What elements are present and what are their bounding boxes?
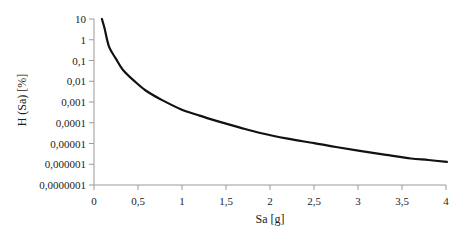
y-tick-label: 0,00001 [50, 138, 86, 150]
y-tick-label: 0,0000001 [39, 179, 86, 191]
x-axis-title: Sa [g] [256, 212, 285, 226]
y-tick-label: 0,01 [67, 75, 86, 87]
x-tick-label: 3,5 [395, 195, 409, 207]
y-tick-label: 0,001 [61, 96, 86, 108]
x-tick-label: 4 [443, 195, 449, 207]
y-tick-label: 0,1 [72, 55, 86, 67]
x-tick-label: 2 [267, 195, 273, 207]
hazard-curve-chart: 1010,10,010,0010,00010,000010,0000010,00… [0, 0, 466, 245]
y-tick-label: 1 [81, 34, 87, 46]
y-axis-title: H (Sa) [%] [15, 74, 29, 127]
y-axis: 1010,10,010,0010,00010,000010,0000010,00… [39, 13, 94, 191]
x-tick-label: 0,5 [131, 195, 145, 207]
hazard-curve-line [102, 19, 447, 162]
x-tick-label: 0 [91, 195, 97, 207]
x-tick-label: 2,5 [307, 195, 321, 207]
x-tick-label: 1,5 [219, 195, 233, 207]
x-axis: 00,511,522,533,54 [91, 185, 449, 207]
y-tick-label: 10 [75, 13, 87, 25]
y-tick-label: 0,0001 [56, 117, 86, 129]
y-tick-label: 0,000001 [45, 158, 86, 170]
x-tick-label: 1 [179, 195, 185, 207]
x-tick-label: 3 [355, 195, 361, 207]
